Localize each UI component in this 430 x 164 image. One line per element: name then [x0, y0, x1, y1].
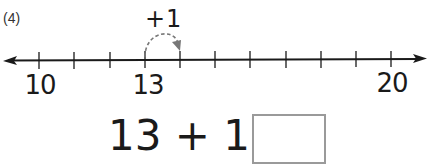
number-line [0, 0, 430, 100]
plus-operator: + [161, 111, 223, 160]
jump-arrow-icon [172, 40, 181, 51]
jump-arc [145, 34, 178, 57]
left-operand: 13 [108, 111, 161, 160]
tick-label-13: 13 [132, 70, 163, 100]
tick-label-20: 20 [376, 68, 407, 98]
tick-label-10: 10 [24, 70, 55, 100]
number-line-axis [8, 59, 420, 61]
answer-box[interactable] [252, 114, 326, 164]
right-operand: 1 [223, 111, 250, 160]
